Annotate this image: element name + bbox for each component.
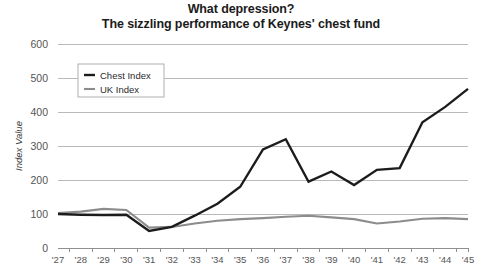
x-tick-label: '39 (325, 254, 337, 265)
x-tick-label: '33 (188, 254, 200, 265)
legend-label-chest-index[interactable]: Chest Index (100, 70, 151, 81)
legend-label-uk-index[interactable]: UK Index (100, 84, 139, 95)
x-tick-label: '37 (280, 254, 292, 265)
y-tick-label: 300 (30, 140, 48, 152)
y-tick-label: 200 (30, 174, 48, 186)
y-tick-label: 100 (30, 208, 48, 220)
x-tick-label: '30 (120, 254, 132, 265)
x-tick-label: '45 (462, 254, 474, 265)
x-tick-label: '36 (257, 254, 269, 265)
x-tick-label: '44 (439, 254, 451, 265)
y-tick-label: 0 (42, 242, 48, 254)
x-tick-label: '41 (371, 254, 383, 265)
chart-container: What depression? The sizzling performanc… (0, 0, 482, 265)
x-tick-label: '40 (348, 254, 360, 265)
data-series (58, 89, 468, 231)
x-tick-label: '31 (143, 254, 155, 265)
x-tick-label: '35 (234, 254, 246, 265)
x-tick-label: '38 (302, 254, 314, 265)
x-tick-label: '42 (393, 254, 405, 265)
chart-legend[interactable]: Chest IndexUK Index (78, 64, 164, 97)
series-line-uk-index (58, 209, 468, 228)
y-tick-label: 600 (30, 38, 48, 50)
x-axis: '27'28'29'30'31'32'33'34'35'36'37'38'39'… (52, 248, 474, 265)
x-tick-label: '28 (75, 254, 87, 265)
x-tick-label: '32 (166, 254, 178, 265)
line-chart-plot: 0100200300400500600 '27'28'29'30'31'32'3… (0, 0, 482, 265)
x-tick-label: '34 (211, 254, 223, 265)
y-tick-label: 400 (30, 106, 48, 118)
y-tick-label: 500 (30, 72, 48, 84)
y-axis-ticks: 0100200300400500600 (30, 38, 48, 254)
x-tick-label: '27 (52, 254, 64, 265)
x-tick-label: '43 (416, 254, 428, 265)
x-tick-label: '29 (97, 254, 109, 265)
y-axis-title: Index Value (13, 121, 24, 171)
